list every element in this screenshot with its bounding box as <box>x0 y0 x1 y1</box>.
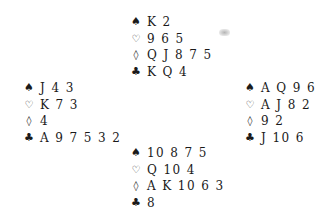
spade-icon: ♠ <box>130 14 142 30</box>
south-clubs: 8 <box>147 195 156 211</box>
south-hearts: Q 10 4 <box>147 162 196 178</box>
heart-icon: ♡ <box>244 97 256 113</box>
diamond-icon: ◊ <box>130 178 142 194</box>
heart-icon: ♡ <box>130 31 142 47</box>
diamond-icon: ◊ <box>244 113 256 129</box>
north-diamonds: Q J 8 7 5 <box>147 47 212 63</box>
north-clubs: K Q 4 <box>147 64 188 80</box>
west-clubs: A 9 7 5 3 2 <box>40 130 121 146</box>
diamond-icon: ◊ <box>130 47 142 63</box>
diamond-icon: ◊ <box>23 113 35 129</box>
heart-icon: ♡ <box>23 97 35 113</box>
spade-icon: ♠ <box>244 80 256 96</box>
east-spades: A Q 9 6 <box>261 80 316 96</box>
spade-icon: ♠ <box>130 145 142 161</box>
scan-artifact <box>219 29 230 36</box>
north-spades: K 2 <box>147 14 172 30</box>
heart-icon: ♡ <box>130 162 142 178</box>
east-diamonds: 9 2 <box>261 113 284 129</box>
east-clubs: J 10 6 <box>261 130 305 146</box>
club-icon: ♣ <box>130 195 142 211</box>
south-diamonds: A K 10 6 3 <box>147 178 224 194</box>
west-hearts: K 7 3 <box>40 97 79 113</box>
club-icon: ♣ <box>130 64 142 80</box>
north-hearts: 9 6 5 <box>147 31 185 47</box>
club-icon: ♣ <box>244 130 256 146</box>
club-icon: ♣ <box>23 130 35 146</box>
south-spades: 10 8 7 5 <box>147 145 208 161</box>
spade-icon: ♠ <box>23 80 35 96</box>
west-diamonds: 4 <box>40 113 49 129</box>
east-hearts: A J 8 2 <box>261 97 311 113</box>
west-spades: J 4 3 <box>40 80 75 96</box>
